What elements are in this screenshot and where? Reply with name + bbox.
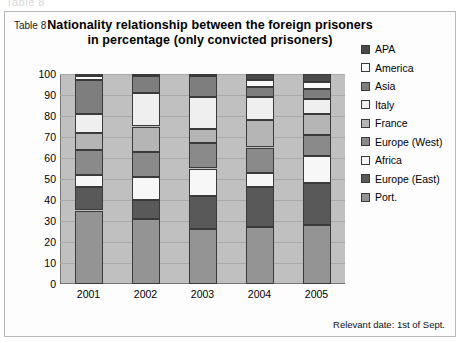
bar-segment-italy-2005[interactable] — [303, 99, 331, 114]
x-axis-tick-label: 2002 — [121, 288, 171, 300]
bar-segment-italy-2002[interactable] — [132, 93, 160, 127]
y-axis-tick-label: 50 — [16, 173, 56, 185]
bar-segment-france-2004[interactable] — [246, 120, 274, 147]
y-axis-tick-label: 20 — [16, 236, 56, 248]
bar-segment-europeeast-2005[interactable] — [303, 183, 331, 225]
bar-segment-apa-2003[interactable] — [189, 74, 217, 76]
bar-segment-america-2001[interactable] — [75, 76, 103, 80]
legend-swatch-icon — [361, 137, 370, 146]
chart-legend: APAAmericaAsiaItalyFranceEurope (West)Af… — [361, 40, 453, 207]
bar-segment-africa-2003[interactable] — [189, 169, 217, 196]
legend-item-asia[interactable]: Asia — [361, 77, 453, 96]
scan-artifact-text: Table 8 — [6, 0, 45, 8]
legend-item-america[interactable]: America — [361, 59, 453, 78]
legend-item-apa[interactable]: APA — [361, 40, 453, 59]
y-axis-tick-label: 0 — [16, 278, 56, 290]
legend-item-label: Europe (West) — [375, 136, 443, 148]
bar-2005[interactable] — [303, 74, 331, 284]
bar-segment-europeeast-2001[interactable] — [75, 187, 103, 210]
bar-segment-apa-2001[interactable] — [75, 74, 103, 76]
bar-2001[interactable] — [75, 74, 103, 284]
chart-figure: Table 8 Nationality relationship between… — [4, 11, 456, 337]
legend-swatch-icon — [361, 119, 370, 128]
legend-swatch-icon — [361, 174, 370, 183]
bar-segment-europewest-2003[interactable] — [189, 143, 217, 168]
bar-segment-europewest-2001[interactable] — [75, 150, 103, 175]
y-axis-tick-label: 10 — [16, 257, 56, 269]
x-axis-tick-label: 2004 — [235, 288, 285, 300]
bar-segment-port-2002[interactable] — [132, 219, 160, 284]
y-axis-tick-label: 40 — [16, 194, 56, 206]
legend-item-label: Europe (East) — [375, 173, 440, 185]
chart-title: Nationality relationship between the for… — [45, 18, 375, 48]
legend-item-label: Asia — [375, 80, 395, 92]
x-axis-tick-label: 2005 — [292, 288, 342, 300]
legend-swatch-icon — [361, 193, 370, 202]
bar-segment-africa-2005[interactable] — [303, 156, 331, 183]
bar-2003[interactable] — [189, 74, 217, 284]
bar-2004[interactable] — [246, 74, 274, 284]
legend-swatch-icon — [361, 63, 370, 72]
bar-segment-africa-2001[interactable] — [75, 175, 103, 188]
y-axis-tick-label: 80 — [16, 110, 56, 122]
plot-wrapper: 1009080706050403020100 20012002200320042… — [60, 74, 345, 284]
bar-segment-europewest-2005[interactable] — [303, 135, 331, 156]
bar-segment-america-2004[interactable] — [246, 80, 274, 86]
y-axis-tick-label: 30 — [16, 215, 56, 227]
bar-segment-america-2005[interactable] — [303, 82, 331, 88]
bar-segment-europeeast-2002[interactable] — [132, 200, 160, 219]
legend-swatch-icon — [361, 45, 370, 54]
chart-footnote: Relevant date: 1st of Sept. — [333, 319, 445, 330]
bar-segment-europewest-2004[interactable] — [246, 148, 274, 173]
bar-segment-france-2003[interactable] — [189, 129, 217, 144]
legend-item-france[interactable]: France — [361, 114, 453, 133]
legend-item-label: America — [375, 62, 414, 74]
x-axis-tick-label: 2001 — [64, 288, 114, 300]
bar-segment-asia-2003[interactable] — [189, 76, 217, 97]
legend-item-port[interactable]: Port. — [361, 188, 453, 207]
legend-item-africa[interactable]: Africa — [361, 151, 453, 170]
bar-segment-france-2001[interactable] — [75, 133, 103, 150]
bar-segment-apa-2002[interactable] — [132, 74, 160, 76]
bar-segment-france-2002[interactable] — [132, 127, 160, 152]
bar-segment-asia-2004[interactable] — [246, 87, 274, 98]
bar-segment-apa-2005[interactable] — [303, 74, 331, 82]
legend-item-europeeast[interactable]: Europe (East) — [361, 170, 453, 189]
legend-item-label: APA — [375, 43, 395, 55]
legend-item-label: Port. — [375, 191, 397, 203]
legend-item-europewest[interactable]: Europe (West) — [361, 133, 453, 152]
bar-segment-port-2003[interactable] — [189, 229, 217, 284]
legend-item-italy[interactable]: Italy — [361, 96, 453, 115]
bar-segment-port-2005[interactable] — [303, 225, 331, 284]
bar-segment-port-2001[interactable] — [75, 211, 103, 285]
y-axis-tick-label: 70 — [16, 131, 56, 143]
legend-item-label: France — [375, 117, 408, 129]
bar-segment-asia-2001[interactable] — [75, 80, 103, 114]
bar-segment-italy-2001[interactable] — [75, 114, 103, 133]
y-axis-tick-label: 60 — [16, 152, 56, 164]
bar-segment-europeeast-2003[interactable] — [189, 196, 217, 230]
legend-item-label: Africa — [375, 154, 402, 166]
bar-segment-port-2004[interactable] — [246, 227, 274, 284]
legend-swatch-icon — [361, 82, 370, 91]
bar-segment-africa-2002[interactable] — [132, 177, 160, 200]
bar-segment-france-2005[interactable] — [303, 114, 331, 135]
legend-swatch-icon — [361, 156, 370, 165]
legend-item-label: Italy — [375, 99, 394, 111]
bar-segment-italy-2004[interactable] — [246, 97, 274, 120]
bar-segment-asia-2005[interactable] — [303, 89, 331, 100]
y-axis-tick-label: 100 — [16, 68, 56, 80]
x-axis-tick-label: 2003 — [178, 288, 228, 300]
bar-segment-apa-2004[interactable] — [246, 74, 274, 80]
bar-segment-europeeast-2004[interactable] — [246, 187, 274, 227]
y-axis-tick-label: 90 — [16, 89, 56, 101]
bar-2002[interactable] — [132, 74, 160, 284]
bar-segment-europewest-2002[interactable] — [132, 152, 160, 177]
bar-segment-africa-2004[interactable] — [246, 173, 274, 188]
table-number-label: Table 8 — [14, 20, 46, 31]
legend-swatch-icon — [361, 100, 370, 109]
bar-segment-italy-2003[interactable] — [189, 97, 217, 129]
bar-segment-asia-2002[interactable] — [132, 76, 160, 93]
